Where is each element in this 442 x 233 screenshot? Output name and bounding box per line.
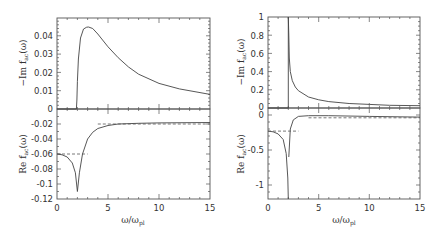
right-top-ylabel: −Im fac(ω) xyxy=(236,38,247,85)
right-top-frame xyxy=(268,17,420,108)
left-xlabel: ω/ωpl xyxy=(121,215,145,227)
left-bottom-curve xyxy=(57,123,210,192)
svg-text:-0.02: -0.02 xyxy=(31,119,53,129)
right-xlabel: ω/ωpl xyxy=(332,215,356,227)
svg-text:0: 0 xyxy=(54,203,59,213)
svg-text:15: 15 xyxy=(415,203,426,213)
svg-text:0.01: 0.01 xyxy=(34,86,53,96)
right-bottom-ylabel: Re fac(ω) xyxy=(236,134,247,174)
svg-text:-0.12: -0.12 xyxy=(31,194,53,204)
right-plot: 1 0.8 0.6 0.4 0.2 0 0 -0.5 -1 0 5 10 15 … xyxy=(236,12,425,227)
svg-text:0.04: 0.04 xyxy=(34,31,53,41)
left-top-frame xyxy=(57,18,210,109)
right-bottom-frame xyxy=(268,108,420,199)
svg-text:1: 1 xyxy=(259,12,264,22)
svg-text:0: 0 xyxy=(265,203,270,213)
left-bottom-ytick-labels: -0.02 -0.04 -0.06 -0.08 -0.1 -0.12 xyxy=(31,119,53,204)
svg-text:5: 5 xyxy=(105,203,110,213)
svg-text:10: 10 xyxy=(364,203,375,213)
svg-text:0.03: 0.03 xyxy=(34,49,53,59)
svg-text:0: 0 xyxy=(48,104,53,114)
svg-text:0: 0 xyxy=(259,110,264,120)
figure: 0.04 0.03 0.02 0.01 0 -0.02 -0.04 -0.06 … xyxy=(0,0,442,233)
svg-text:-0.04: -0.04 xyxy=(31,134,53,144)
right-top-curve xyxy=(268,17,420,108)
svg-text:5: 5 xyxy=(316,203,321,213)
right-top-ytick-labels: 1 0.8 0.6 0.4 0.2 0 xyxy=(250,12,264,112)
left-bottom-ylabel: Re fac(ω) xyxy=(18,134,29,174)
svg-text:0.8: 0.8 xyxy=(250,31,264,41)
left-top-ylabel: −Im fac(ω) xyxy=(18,39,29,86)
svg-text:-0.5: -0.5 xyxy=(247,145,264,155)
svg-text:-1: -1 xyxy=(256,180,264,190)
svg-text:0.02: 0.02 xyxy=(34,68,53,78)
right-bottom-ytick-labels: 0 -0.5 -1 xyxy=(247,110,264,190)
right-bottom-curve xyxy=(268,116,420,199)
svg-text:0.4: 0.4 xyxy=(250,67,264,77)
svg-text:-0.06: -0.06 xyxy=(31,149,53,159)
svg-text:-0.1: -0.1 xyxy=(36,179,53,189)
svg-text:0.6: 0.6 xyxy=(250,49,264,59)
left-plot: 0.04 0.03 0.02 0.01 0 -0.02 -0.04 -0.06 … xyxy=(18,18,215,227)
right-xtick-labels: 0 5 10 15 xyxy=(265,203,425,213)
svg-text:-0.08: -0.08 xyxy=(31,164,53,174)
left-top-ytick-labels: 0.04 0.03 0.02 0.01 0 xyxy=(34,31,53,114)
svg-text:0.2: 0.2 xyxy=(250,85,264,95)
left-top-curve xyxy=(57,27,210,109)
svg-text:10: 10 xyxy=(154,203,165,213)
svg-text:15: 15 xyxy=(205,203,216,213)
left-xtick-labels: 0 5 10 15 xyxy=(54,203,215,213)
